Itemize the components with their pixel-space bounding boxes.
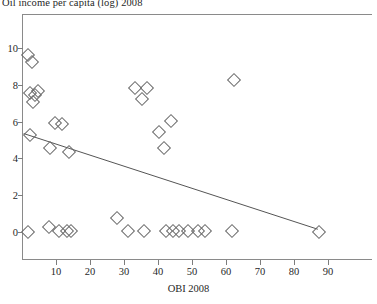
y-axis-tick-label: 6 [0, 116, 18, 127]
x-axis-tick [56, 260, 57, 265]
y-axis-tick-label: 10 [0, 43, 18, 54]
x-axis-tick [294, 260, 295, 265]
x-axis-tick [328, 260, 329, 265]
x-axis-tick-label: 10 [43, 266, 69, 277]
y-axis-tick [18, 122, 23, 123]
y-axis-tick [18, 195, 23, 196]
x-axis-tick-label: 70 [247, 266, 273, 277]
y-axis-tick [18, 158, 23, 159]
x-axis-tick-label: 20 [77, 266, 103, 277]
chart-container: Oil income per capita (log) 2008 OBI 200… [0, 0, 377, 304]
x-axis-tick [90, 260, 91, 265]
x-axis-tick [260, 260, 261, 265]
x-axis-tick [158, 260, 159, 265]
y-axis-tick [18, 232, 23, 233]
y-axis-tick-label: 8 [0, 79, 18, 90]
y-axis-tick [18, 48, 23, 49]
x-axis-tick [124, 260, 125, 265]
plot-area [22, 14, 372, 260]
x-axis-tick [192, 260, 193, 265]
x-axis-tick [226, 260, 227, 265]
y-axis-tick-label: 4 [0, 153, 18, 164]
x-axis-tick-label: 40 [145, 266, 171, 277]
chart-title: Oil income per capita (log) 2008 [2, 0, 143, 8]
y-axis-tick-label: 2 [0, 190, 18, 201]
y-axis-tick-label: 0 [0, 227, 18, 238]
x-axis-tick-label: 30 [111, 266, 137, 277]
x-axis-tick-label: 80 [281, 266, 307, 277]
x-axis-tick-label: 90 [315, 266, 341, 277]
x-axis-title: OBI 2008 [0, 283, 377, 294]
x-axis-tick-label: 50 [179, 266, 205, 277]
y-axis-tick [18, 85, 23, 86]
x-axis-tick-label: 60 [213, 266, 239, 277]
